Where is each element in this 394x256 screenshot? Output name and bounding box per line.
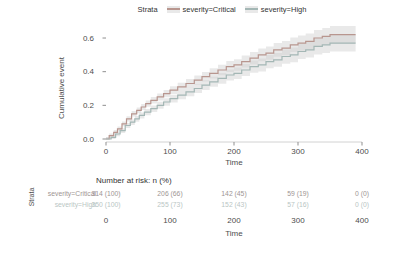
legend-key-line-icon [167,6,180,13]
risk-table-cell: 206 (66) [138,190,202,198]
y-tick-label: 0.6 [70,34,94,43]
x-tick-label: 400 [347,147,377,156]
y-axis-title: Cumulative event [57,43,67,133]
risk-table-cell: 57 (16) [266,201,330,209]
x-tick-label: 100 [155,147,185,156]
legend: Strata severity=Criticalseverity=High [75,2,369,16]
step-curve-high [106,43,356,139]
survival-plot-figure: Strata severity=Criticalseverity=High Cu… [0,0,394,256]
y-tick-label: 0.4 [70,67,94,76]
legend-item-high: severity=High [245,5,307,14]
risk-table-x-tick-label: 0 [91,216,121,225]
risk-table-x-tick-label: 400 [347,216,377,225]
risk-table-cell: 152 (43) [202,201,266,209]
y-tick-label: 0.2 [70,101,94,110]
risk-table-x-axis-title: Time [214,229,254,238]
risk-table-cell: 0 (0) [330,190,394,198]
y-tick-label: 0.0 [70,135,94,144]
risk-table-cell: 0 (0) [330,201,394,209]
risk-table-cell: 255 (73) [138,201,202,209]
x-tick-label: 300 [283,147,313,156]
legend-item-critical: severity=Critical [167,5,236,14]
x-axis-title: Time [214,158,254,167]
risk-table-cell: 142 (45) [202,190,266,198]
x-tick-label: 200 [219,147,249,156]
risk-table-title: Number at risk: n (%) [96,176,172,185]
risk-table-x-tick-label: 300 [283,216,313,225]
legend-item-label: severity=High [261,5,307,14]
risk-table-x-tick-label: 200 [219,216,249,225]
risk-table-cell: 314 (100) [74,190,138,198]
legend-item-label: severity=Critical [183,5,236,14]
risk-table-cell: 59 (19) [266,190,330,198]
legend-title: Strata [138,5,158,14]
risk-table-cell: 350 (100) [74,201,138,209]
legend-key-line-icon [245,6,258,13]
risk-table-x-tick-label: 100 [155,216,185,225]
x-tick-label: 0 [91,147,121,156]
legend-items: severity=Criticalseverity=High [167,5,307,14]
confidence-ribbon-high [106,34,356,139]
plot-panel [96,24,390,146]
